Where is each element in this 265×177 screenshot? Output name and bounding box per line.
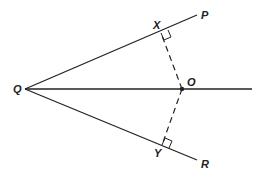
label-o: O — [187, 76, 196, 88]
perpendicular-oy — [162, 89, 182, 145]
label-y: Y — [154, 147, 163, 159]
perpendicular-ox — [161, 33, 182, 89]
angle-bisector-diagram: Q P X O Y R — [0, 0, 265, 177]
label-r: R — [201, 158, 209, 170]
line-qp — [25, 15, 197, 89]
label-p: P — [201, 9, 209, 21]
label-q: Q — [13, 83, 22, 95]
point-o — [180, 87, 184, 91]
label-x: X — [152, 19, 161, 31]
line-qr — [25, 89, 197, 160]
